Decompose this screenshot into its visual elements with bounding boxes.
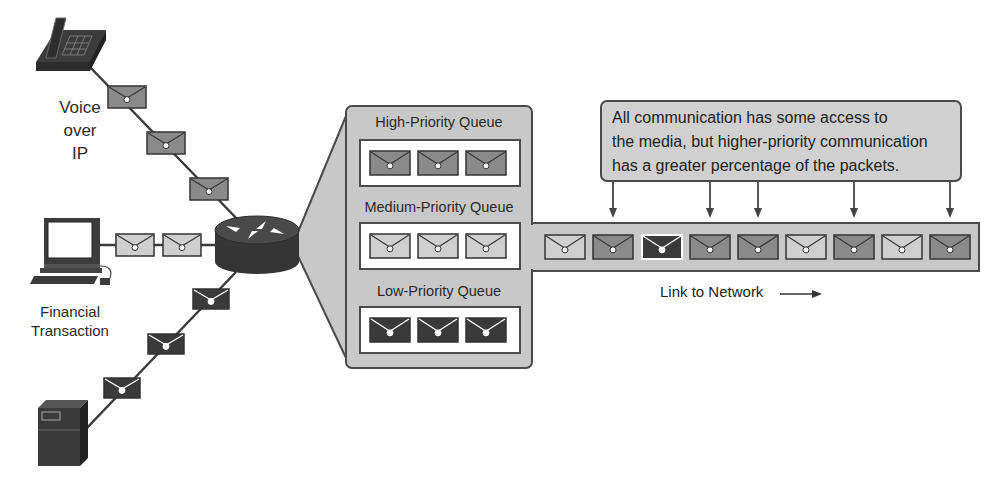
packet-envelope-icon: [190, 178, 228, 200]
packet-envelope-icon: [690, 235, 730, 259]
packet-envelope-icon: [370, 151, 410, 175]
packet-envelope-icon: [104, 378, 140, 398]
packet-envelope-icon: [466, 318, 506, 342]
low-priority-queue-title: Low-Priority Queue: [346, 283, 532, 299]
packet-envelope-icon: [163, 234, 201, 256]
callout-arrows: [609, 181, 954, 218]
packet-envelope-icon: [545, 235, 585, 259]
packet-envelope-icon: [738, 235, 778, 259]
packet-envelope-icon: [466, 234, 506, 258]
packet-envelope-icon: [882, 235, 922, 259]
high-priority-queue-title: High-Priority Queue: [346, 114, 532, 130]
packet-envelope-icon: [418, 318, 458, 342]
packet-envelope-icon: [147, 132, 185, 154]
workstation-icon: [30, 218, 111, 285]
packet-envelope-icon: [642, 235, 682, 259]
voice-over-ip-label: Voice over IP: [40, 96, 120, 165]
queue-boxes: [360, 140, 520, 353]
link-to-network-label: Link to Network: [660, 283, 763, 300]
packet-envelope-icon: [593, 235, 633, 259]
link-packets: [545, 235, 970, 259]
server-icon: [38, 400, 88, 466]
financial-label-line-2: Transaction: [20, 321, 120, 340]
financial-label-line-1: Financial: [20, 302, 120, 321]
packet-envelope-icon: [466, 151, 506, 175]
voice-label-line-1: Voice: [40, 96, 120, 119]
packet-envelope-icon: [786, 235, 826, 259]
voice-label-line-2: over: [40, 119, 120, 142]
callout-line-1: All communication has some access to: [612, 106, 957, 130]
packet-envelope-icon: [834, 235, 874, 259]
packet-envelope-icon: [193, 289, 229, 309]
voice-label-line-3: IP: [40, 142, 120, 165]
packet-envelope-icon: [418, 151, 458, 175]
packet-envelope-icon: [148, 334, 184, 354]
router-icon: [215, 216, 299, 274]
ip-phone-icon: [36, 18, 106, 71]
path-packets: [104, 86, 229, 398]
queue-zoom-funnel: [298, 116, 346, 358]
link-direction-arrow-icon: [780, 290, 822, 298]
callout-text: All communication has some access to the…: [612, 106, 957, 178]
packet-envelope-icon: [418, 234, 458, 258]
packet-envelope-icon: [370, 234, 410, 258]
packet-envelope-icon: [370, 318, 410, 342]
medium-priority-queue-title: Medium-Priority Queue: [346, 199, 532, 215]
financial-transaction-label: Financial Transaction: [20, 302, 120, 340]
packet-envelope-icon: [930, 235, 970, 259]
callout-line-3: has a greater percentage of the packets.: [612, 154, 957, 178]
packet-envelope-icon: [116, 234, 154, 256]
qos-diagram: [0, 0, 1006, 486]
callout-line-2: the media, but higher-priority communica…: [612, 130, 957, 154]
